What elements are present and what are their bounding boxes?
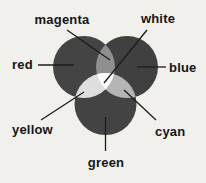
- label-red: red: [12, 57, 33, 72]
- label-green: green: [88, 155, 124, 170]
- color-mixing-diagram: magenta white red blue yellow cyan green: [0, 0, 206, 183]
- label-white: white: [140, 11, 175, 26]
- label-cyan: cyan: [155, 124, 185, 139]
- label-yellow: yellow: [12, 122, 54, 137]
- label-magenta: magenta: [35, 12, 90, 27]
- label-blue: blue: [169, 60, 197, 75]
- venn-diagram-svg: magenta white red blue yellow cyan green: [0, 0, 206, 183]
